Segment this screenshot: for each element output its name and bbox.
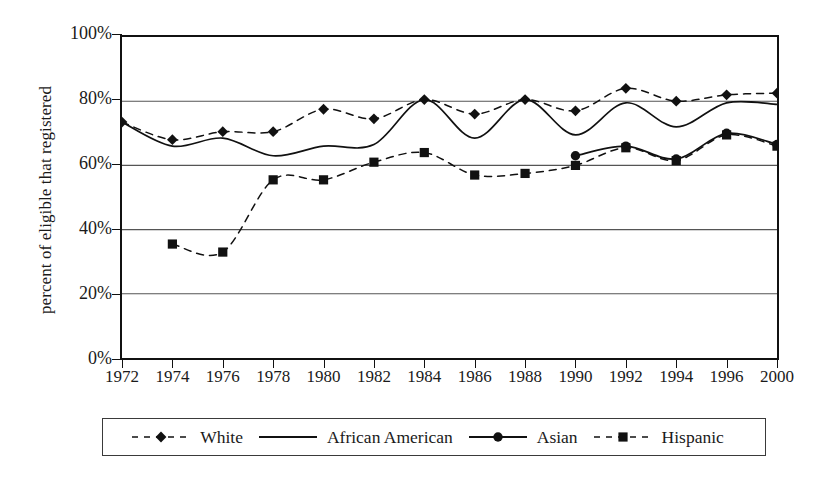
data-point-hispanic [319,175,328,184]
series-line-african-american [122,100,777,156]
legend-label: Asian [529,427,592,448]
data-point-hispanic [218,247,227,256]
legend-label: White [192,427,257,448]
plot-area [120,35,779,360]
data-point-white [469,109,480,120]
data-point-white [318,104,329,115]
legend-swatch-circle-icon [467,427,529,447]
x-tick-mark [172,359,173,368]
x-tick-mark [525,359,526,368]
data-point-white [167,134,178,145]
x-tick-mark [777,359,778,368]
data-point-white [772,88,777,99]
y-tick-label: 20% [50,284,112,302]
y-tick-label: 80% [50,89,112,107]
data-point-hispanic [168,239,177,248]
x-tick-mark [676,359,677,368]
chart-legend: WhiteAfrican AmericanAsianHispanic [102,418,766,456]
x-tick-mark [223,359,224,368]
data-point-white [620,83,631,94]
legend-marker-square-icon [618,432,627,441]
y-tick-label: 40% [50,219,112,237]
x-tick-mark [324,359,325,368]
data-point-hispanic [772,142,777,151]
x-tick-mark [475,359,476,368]
data-point-asian [571,151,580,160]
x-axis-tick-labels: 1972197419761978198019821984198619881990… [120,368,779,398]
data-point-hispanic [420,148,429,157]
legend-item-asian[interactable]: Asian [467,419,592,455]
y-tick-label: 0% [50,349,112,367]
y-tick-label: 100% [50,24,112,42]
data-point-white [721,89,732,100]
x-tick-label: 2000 [742,368,812,385]
data-point-hispanic [672,156,681,165]
data-point-hispanic [470,170,479,179]
data-point-hispanic [520,169,529,178]
data-point-hispanic [571,161,580,170]
x-tick-mark [273,359,274,368]
data-point-hispanic [621,143,630,152]
legend-item-african-american[interactable]: African American [257,419,467,455]
data-point-hispanic [269,175,278,184]
data-point-white [671,96,682,107]
x-tick-mark [727,359,728,368]
y-axis-tick-labels: 0%20%40%60%80%100% [44,0,112,477]
data-point-white [268,126,279,137]
x-tick-mark [424,359,425,368]
x-tick-mark [575,359,576,368]
data-point-hispanic [722,130,731,139]
data-point-white [369,113,380,124]
x-tick-mark [374,359,375,368]
x-tick-mark [626,359,627,368]
legend-swatch-none-icon [257,427,319,447]
plot-svg [122,37,777,358]
legend-label: Hispanic [654,427,738,448]
legend-swatch-diamond-icon [130,427,192,447]
data-point-white [570,105,581,116]
legend-label: African American [319,427,467,448]
legend-item-hispanic[interactable]: Hispanic [592,419,738,455]
legend-marker-circle-icon [493,432,502,441]
data-point-hispanic [369,158,378,167]
legend-swatch-square-icon [592,427,654,447]
chart-root: percent of eligible that registered 0%20… [0,0,825,477]
legend-marker-diamond-icon [156,432,167,443]
legend-item-white[interactable]: White [130,419,257,455]
y-tick-label: 60% [50,154,112,172]
x-tick-mark [122,359,123,368]
data-point-white [217,126,228,137]
